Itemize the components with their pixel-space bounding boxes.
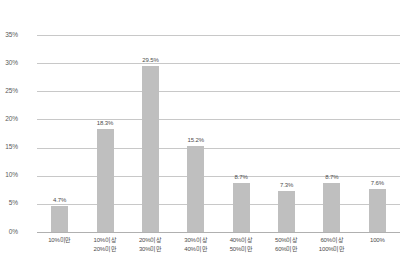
x-axis-label-line: 100% bbox=[355, 236, 400, 245]
bar-value-label: 4.7% bbox=[53, 197, 66, 203]
x-axis-label-line: 100%미만 bbox=[309, 245, 354, 254]
x-axis-label-line: 60%미만 bbox=[264, 245, 309, 254]
bar-slot: 8.7% bbox=[219, 35, 264, 232]
bar-slot: 7.6% bbox=[355, 35, 400, 232]
bar-value-label: 15.2% bbox=[188, 137, 205, 143]
x-axis-label-line: 20%이상 bbox=[128, 236, 173, 245]
x-axis-label-line: 20%미만 bbox=[82, 245, 127, 254]
x-axis-label-line: 60%이상 bbox=[309, 236, 354, 245]
x-axis-category-label: 10%미만 bbox=[37, 236, 82, 254]
bar-slot: 8.7% bbox=[309, 35, 354, 232]
bar-value-label: 8.7% bbox=[325, 174, 338, 180]
x-axis-label-line: 50%미만 bbox=[219, 245, 264, 254]
y-axis-tick-label: 20% bbox=[0, 116, 18, 123]
x-axis-label-line: 10%미만 bbox=[37, 236, 82, 245]
y-axis-tick-label: 5% bbox=[0, 200, 18, 207]
bar[interactable]: 8.7% bbox=[233, 183, 250, 232]
bar-value-label: 18.3% bbox=[97, 120, 114, 126]
x-axis-category-label: 30%이상40%미만 bbox=[173, 236, 218, 254]
bar-value-label: 8.7% bbox=[235, 174, 248, 180]
bar[interactable]: 15.2% bbox=[187, 146, 204, 232]
bars-layer: 4.7%18.3%29.5%15.2%8.7%7.3%8.7%7.6% bbox=[37, 35, 400, 232]
bar[interactable]: 8.7% bbox=[323, 183, 340, 232]
bar-slot: 15.2% bbox=[173, 35, 218, 232]
x-axis-label-line: 50%이상 bbox=[264, 236, 309, 245]
x-axis-label-line: 30%이상 bbox=[173, 236, 218, 245]
x-axis-label-line: 40%미만 bbox=[173, 245, 218, 254]
x-axis-category-label: 100% bbox=[355, 236, 400, 254]
y-axis-tick-label: 0% bbox=[0, 229, 18, 236]
bar-value-label: 7.6% bbox=[371, 180, 384, 186]
bar[interactable]: 7.3% bbox=[278, 191, 295, 232]
x-axis-category-label: 60%이상100%미만 bbox=[309, 236, 354, 254]
y-axis-tick-label: 25% bbox=[0, 88, 18, 95]
bar[interactable]: 4.7% bbox=[51, 206, 68, 232]
bar-value-label: 7.3% bbox=[280, 182, 293, 188]
bar-slot: 18.3% bbox=[82, 35, 127, 232]
y-axis-tick-label: 15% bbox=[0, 144, 18, 151]
y-axis-tick-label: 35% bbox=[0, 32, 18, 39]
bar-value-label: 29.5% bbox=[142, 57, 159, 63]
bar[interactable]: 7.6% bbox=[369, 189, 386, 232]
x-axis-label-line: 40%이상 bbox=[219, 236, 264, 245]
bar-slot: 29.5% bbox=[128, 35, 173, 232]
x-axis-label-line: 30%미만 bbox=[128, 245, 173, 254]
bar-slot: 7.3% bbox=[264, 35, 309, 232]
bar-chart: 0%5%10%15%20%25%30%35% 4.7%18.3%29.5%15.… bbox=[0, 0, 414, 274]
bar-slot: 4.7% bbox=[37, 35, 82, 232]
x-axis-label-line: 10%이상 bbox=[82, 236, 127, 245]
bar[interactable]: 29.5% bbox=[142, 66, 159, 232]
x-axis-labels: 10%미만10%이상20%미만20%이상30%미만30%이상40%미만40%이상… bbox=[37, 236, 400, 254]
x-axis-category-label: 20%이상30%미만 bbox=[128, 236, 173, 254]
y-axis-tick-label: 30% bbox=[0, 60, 18, 67]
axis-baseline bbox=[37, 232, 400, 233]
x-axis-category-label: 10%이상20%미만 bbox=[82, 236, 127, 254]
y-axis-tick-label: 10% bbox=[0, 172, 18, 179]
x-axis-category-label: 50%이상60%미만 bbox=[264, 236, 309, 254]
bar[interactable]: 18.3% bbox=[97, 129, 114, 232]
x-axis-category-label: 40%이상50%미만 bbox=[219, 236, 264, 254]
